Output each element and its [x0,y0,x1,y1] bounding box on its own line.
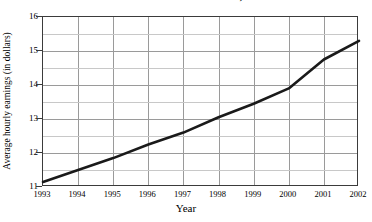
x-axis-tick-label: 1994 [69,189,86,199]
x-axis-tick-label: 1999 [244,189,261,199]
x-axis-title: Year [0,202,372,214]
x-axis-ticks: 1993199419951996199719981999200020012002 [0,0,372,222]
x-axis-tick-label: 1995 [104,189,121,199]
x-axis-tick-label: 1996 [139,189,156,199]
x-axis-tick-label: 2001 [314,189,331,199]
x-axis-tick-label: 1993 [34,189,51,199]
x-axis-tick-label: 2002 [350,189,367,199]
x-axis-tick-label: 2000 [279,189,296,199]
x-axis-tick-label: 1997 [174,189,191,199]
x-axis-tick-label: 1998 [209,189,226,199]
